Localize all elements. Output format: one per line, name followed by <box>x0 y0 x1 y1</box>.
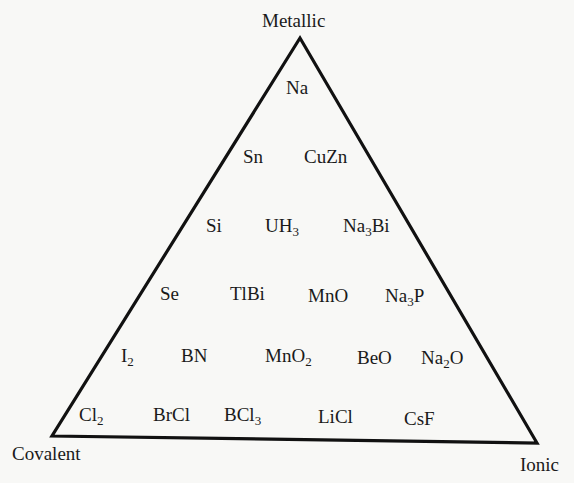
vertex-label-covalent: Covalent <box>12 444 81 463</box>
compound-label: Si <box>206 216 222 235</box>
compound-label: CsF <box>404 409 435 428</box>
subscript: 2 <box>97 413 104 428</box>
compound-label: Se <box>160 284 179 303</box>
compound-label: I2 <box>121 346 134 365</box>
compound-label: MnO2 <box>265 346 312 365</box>
compound-label: Sn <box>243 147 263 166</box>
compound-label: Na3Bi <box>343 216 390 235</box>
compound-label: Na3P <box>385 286 424 305</box>
compound-label: Na2O <box>421 348 463 367</box>
subscript: 3 <box>365 224 372 239</box>
compound-label: BeO <box>357 348 392 367</box>
subscript: 2 <box>305 354 312 369</box>
subscript: 3 <box>255 413 262 428</box>
vertex-label-ionic: Ionic <box>520 455 559 474</box>
compound-label: BrCl <box>153 405 190 424</box>
compound-label: BN <box>181 346 207 365</box>
subscript: 2 <box>443 356 450 371</box>
subscript: 2 <box>127 354 134 369</box>
compound-label: Cl2 <box>79 405 103 424</box>
compound-label: UH3 <box>265 216 299 235</box>
subscript: 3 <box>407 294 414 309</box>
compound-label: LiCl <box>318 407 353 426</box>
compound-label: BCl3 <box>224 405 261 424</box>
compound-label: TlBi <box>230 284 265 303</box>
compound-label: CuZn <box>304 147 347 166</box>
subscript: 3 <box>292 224 299 239</box>
compound-label: MnO <box>308 286 348 305</box>
vertex-label-metallic: Metallic <box>262 11 325 30</box>
compound-label: Na <box>286 78 308 97</box>
bonding-triangle-diagram: Metallic Covalent Ionic Na Sn CuZn Si UH… <box>0 0 574 483</box>
